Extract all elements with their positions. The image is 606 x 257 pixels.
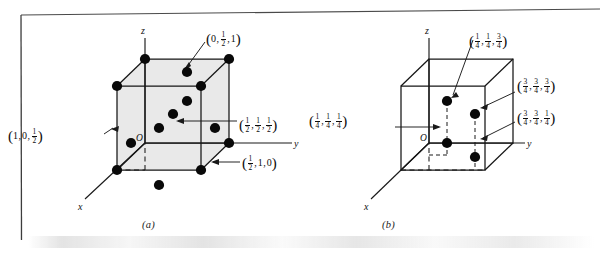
coord-label-quarter-quarter-threequarter: (14,14,34) (469, 33, 507, 50)
cube-b-arrowheads (433, 92, 488, 141)
coord-label-threequarter-threequarter-threequarter: (34,34,34) (517, 78, 555, 95)
atom (112, 81, 122, 91)
atom (140, 54, 150, 64)
atom (224, 138, 234, 148)
z-axis-label: z (140, 25, 145, 36)
coord-label-0-half-1: (0,12,1) (206, 31, 241, 48)
atom (442, 96, 452, 106)
coord-label-half-half-half: (12,12,12) (239, 117, 277, 134)
atom (210, 123, 220, 133)
y-axis-label: y (526, 138, 532, 149)
cube-b-leader-lines (395, 40, 515, 138)
origin-label: O (420, 133, 427, 143)
cube-b-atom-droplines (429, 101, 475, 170)
y-axis-label: y (293, 138, 299, 149)
atom (442, 138, 452, 148)
coord-label-threequarter-threequarter-quarter: (34,34,14) (517, 110, 555, 127)
x-axis-label: x (363, 201, 369, 212)
atom (168, 109, 178, 119)
atom (112, 165, 122, 175)
atom (224, 54, 234, 64)
atom (182, 67, 192, 77)
cube-b-edges (401, 59, 513, 170)
atom (470, 152, 480, 162)
coord-label-half-1-0: (12,1,0) (242, 155, 277, 172)
panel-b-caption: (b) (382, 219, 395, 230)
atom (196, 165, 206, 175)
origin-label: O (136, 133, 143, 143)
atom (182, 96, 192, 106)
atom (154, 180, 164, 190)
coord-label-quarter-quarter-quarter: (14,14,14) (309, 113, 347, 130)
scan-smudge-artifact (28, 236, 594, 248)
x-axis-label: x (77, 201, 83, 212)
z-axis-label: z (424, 25, 429, 36)
atom (470, 109, 480, 119)
cube-b-axes (371, 38, 525, 199)
atom (126, 138, 136, 148)
atom (196, 81, 206, 91)
figure-page: z y x O (0, 0, 606, 257)
coord-label-1-0-half: (1,0,12) (8, 128, 43, 145)
atom (154, 123, 164, 133)
panel-a-caption: (a) (142, 219, 155, 230)
cube-b-atoms (442, 96, 480, 162)
panel-b-diagram: z y x O (303, 0, 606, 257)
